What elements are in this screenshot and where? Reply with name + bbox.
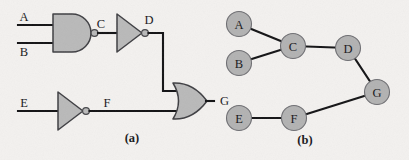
signal-label-d: D [144, 13, 153, 27]
panel-b-caption: (b) [297, 133, 312, 147]
signal-label-g: G [220, 94, 229, 108]
signal-label-a: A [19, 10, 28, 24]
inverter-f-bubble [83, 108, 90, 115]
panel-a-circuit: A B C D E F G (a) [18, 10, 229, 145]
graph-node-g[interactable]: G [365, 80, 390, 105]
signal-label-f: F [104, 96, 111, 110]
graph-node-a-label: A [234, 18, 243, 32]
graph-node-b-label: B [235, 57, 243, 71]
graph-node-f-label: F [291, 112, 298, 126]
signal-label-b: B [20, 45, 28, 59]
graph-node-e-label: E [235, 112, 243, 126]
graph-node-c-label: C [289, 40, 297, 54]
graph-node-f[interactable]: F [282, 106, 307, 131]
graph-node-a[interactable]: A [227, 12, 252, 37]
inverter-f-body [58, 92, 83, 130]
wire-d [149, 33, 178, 91]
nand-gate-body [53, 14, 91, 52]
inverter-d-bubble [142, 30, 149, 37]
signal-label-c: C [97, 17, 105, 31]
graph-node-d-label: D [343, 42, 352, 56]
panel-a-caption: (a) [125, 131, 140, 145]
inverter-d-body [117, 14, 142, 52]
panel-b-graph: A B C D E F G [227, 12, 390, 148]
graph-node-d[interactable]: D [336, 36, 361, 61]
figure-canvas: A B C D E F G (a) A B [0, 0, 409, 160]
or-gate-body [173, 83, 207, 119]
graph-node-c[interactable]: C [281, 34, 306, 59]
signal-label-e: E [20, 96, 28, 110]
graph-node-b[interactable]: B [227, 51, 252, 76]
figure-root: A B C D E F G (a) A B [0, 0, 409, 160]
graph-node-g-label: G [372, 86, 381, 100]
graph-node-e[interactable]: E [227, 106, 252, 131]
